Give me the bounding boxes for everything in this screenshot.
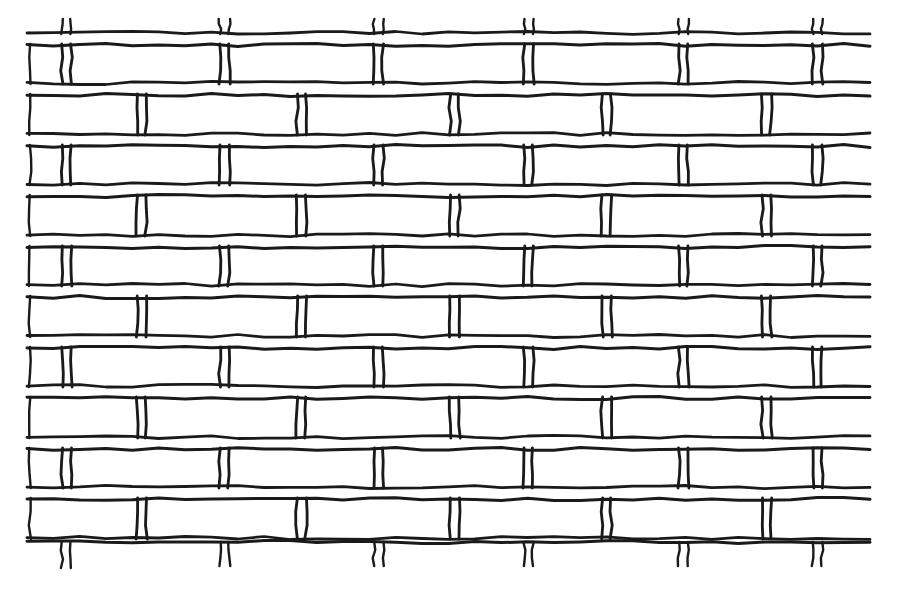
head-joint-left bbox=[523, 347, 524, 387]
head-joint-right bbox=[146, 296, 147, 337]
wall-left-edge-return bbox=[29, 195, 30, 236]
head-joint-right bbox=[229, 44, 231, 84]
wall-left-edge-return bbox=[29, 246, 30, 286]
head-joint-left bbox=[449, 498, 450, 539]
head-joint-right bbox=[71, 246, 72, 286]
head-joint-stub-bottom bbox=[383, 542, 384, 566]
head-joint-left bbox=[678, 448, 680, 488]
head-joint-right bbox=[771, 195, 772, 236]
head-joint-right bbox=[532, 145, 534, 185]
head-joint-right bbox=[821, 44, 823, 84]
head-joint-stub-top bbox=[678, 19, 680, 34]
head-joint-right bbox=[687, 145, 689, 185]
head-joint-right bbox=[821, 448, 823, 488]
wall-left-edge-return bbox=[29, 448, 31, 488]
head-joint-stub-bottom bbox=[373, 542, 376, 566]
head-joint-left bbox=[219, 347, 221, 387]
head-joint-left bbox=[296, 397, 298, 438]
head-joint-right bbox=[533, 347, 535, 387]
head-joint-right bbox=[821, 246, 823, 286]
page-canvas bbox=[0, 0, 903, 594]
head-joint-stub-top bbox=[533, 19, 534, 34]
head-joint-left bbox=[296, 94, 298, 135]
head-joint-stub-bottom bbox=[61, 542, 63, 568]
head-joint-left bbox=[761, 195, 763, 236]
head-joint-left bbox=[62, 246, 63, 286]
head-joint-right bbox=[770, 296, 772, 337]
head-joint-stub-bottom bbox=[228, 542, 230, 566]
head-joint-right bbox=[611, 296, 613, 337]
head-joint-left bbox=[296, 498, 298, 539]
head-joint-right bbox=[71, 347, 73, 387]
head-joint-left bbox=[374, 448, 375, 488]
head-joint-right bbox=[383, 246, 384, 286]
head-joint-left bbox=[219, 145, 220, 185]
mortar-line-horizontal bbox=[27, 346, 870, 349]
head-joint-right bbox=[382, 145, 384, 185]
head-joint-right bbox=[145, 195, 147, 236]
head-joint-left bbox=[373, 246, 374, 286]
wall-left-edge-return bbox=[29, 296, 31, 337]
head-joint-right bbox=[305, 498, 307, 539]
head-joint-left bbox=[523, 44, 525, 84]
mortar-line-horizontal bbox=[27, 384, 870, 387]
head-joint-left bbox=[449, 296, 450, 337]
mortar-line-horizontal bbox=[27, 497, 870, 500]
head-joint-right bbox=[70, 44, 72, 84]
head-joint-right bbox=[610, 195, 612, 236]
head-joint-left bbox=[136, 195, 138, 236]
head-joint-stub-top bbox=[688, 19, 689, 34]
head-joint-left bbox=[812, 347, 813, 387]
head-joint-left bbox=[761, 94, 762, 135]
mortar-line-horizontal bbox=[27, 435, 870, 438]
head-joint-left bbox=[523, 246, 525, 286]
head-joint-left bbox=[812, 246, 813, 286]
head-joint-left bbox=[812, 145, 813, 185]
head-joint-left bbox=[219, 246, 221, 286]
head-joint-right bbox=[382, 347, 384, 387]
head-joint-stub-bottom bbox=[219, 542, 221, 566]
head-joint-left bbox=[137, 94, 138, 135]
head-joint-stub-bottom bbox=[70, 542, 71, 568]
head-joint-right bbox=[71, 448, 72, 488]
wall-left-edge-return bbox=[29, 347, 31, 387]
wall-left-edge-return bbox=[29, 94, 30, 135]
mortar-line-horizontal bbox=[27, 485, 870, 488]
head-joint-right bbox=[770, 94, 773, 135]
head-joint-left bbox=[813, 448, 814, 488]
head-joint-left bbox=[523, 448, 524, 488]
head-joint-left bbox=[136, 397, 138, 438]
mortar-line-horizontal bbox=[27, 44, 870, 47]
head-joint-stub-bottom bbox=[812, 542, 814, 566]
head-joint-right bbox=[305, 296, 306, 337]
wall-left-edge-return bbox=[29, 145, 31, 185]
head-joint-left bbox=[61, 44, 63, 84]
head-joint-right bbox=[532, 448, 533, 488]
head-joint-left bbox=[373, 347, 374, 387]
head-joint-stub-bottom bbox=[688, 542, 689, 566]
head-joint-right bbox=[459, 397, 461, 438]
head-joint-left bbox=[679, 246, 680, 286]
brick-wall-drawing bbox=[0, 0, 903, 594]
mortar-line-horizontal bbox=[27, 93, 870, 96]
mortar-line-horizontal bbox=[27, 448, 870, 451]
brick-wall-strokes bbox=[27, 19, 870, 568]
head-joint-right bbox=[458, 195, 460, 236]
head-joint-left bbox=[678, 44, 680, 84]
head-joint-left bbox=[61, 145, 62, 185]
head-joint-left bbox=[601, 498, 603, 539]
head-joint-left bbox=[449, 397, 451, 438]
head-joint-left bbox=[524, 145, 525, 185]
head-joint-right bbox=[770, 498, 771, 539]
head-joint-right bbox=[146, 498, 148, 539]
head-joint-right bbox=[145, 94, 147, 135]
head-joint-left bbox=[62, 347, 64, 387]
mortar-line-horizontal bbox=[27, 195, 870, 198]
head-joint-left bbox=[449, 94, 451, 135]
head-joint-left bbox=[296, 296, 297, 337]
mortar-line-horizontal bbox=[27, 541, 870, 544]
head-joint-right bbox=[533, 44, 534, 84]
head-joint-stub-top bbox=[373, 19, 375, 34]
head-joint-left bbox=[373, 44, 374, 84]
head-joint-right bbox=[532, 246, 534, 286]
